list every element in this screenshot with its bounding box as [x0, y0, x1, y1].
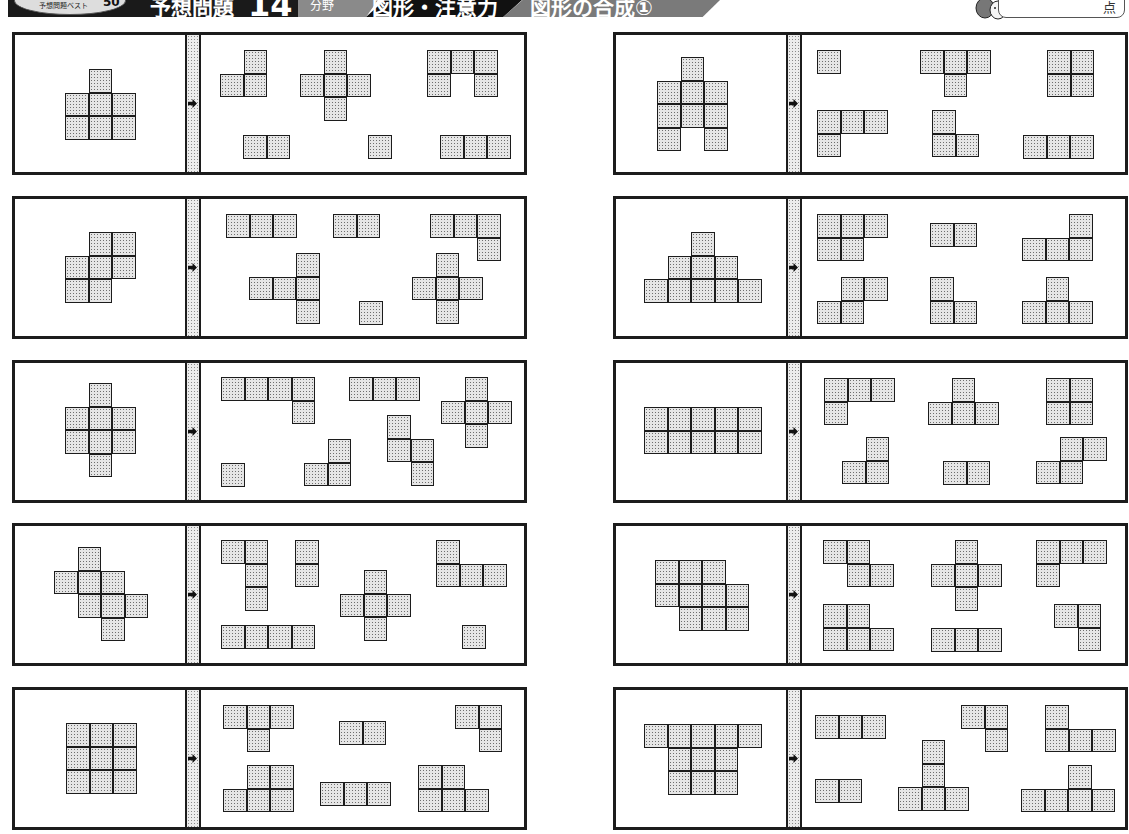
shape-cell — [922, 787, 946, 811]
shape-cell — [347, 74, 371, 98]
shape-cell — [644, 431, 668, 455]
shape-cell — [247, 705, 271, 729]
shape-cell — [1060, 437, 1084, 461]
shape-cell — [441, 401, 465, 425]
shape-cell — [985, 729, 1009, 753]
shape-cell — [817, 238, 841, 262]
panel-divider — [185, 199, 201, 336]
shape-cell — [839, 715, 863, 739]
shape-cell — [295, 564, 319, 588]
shape-cell — [66, 770, 90, 794]
shape-cell — [847, 604, 871, 628]
shape-cell — [870, 628, 894, 652]
shape-cell — [1047, 50, 1071, 74]
shape-cell — [848, 378, 872, 402]
problem-panel-7 — [613, 196, 1128, 339]
shape-cell — [644, 724, 668, 748]
shape-cell — [451, 50, 475, 74]
shape-cell — [952, 402, 976, 426]
shape-cell — [320, 782, 344, 806]
shape-cell — [817, 110, 841, 134]
shape-cell — [657, 104, 681, 128]
shape-cell — [1047, 74, 1071, 98]
shape-cell — [440, 135, 464, 159]
shape-cell — [479, 705, 503, 729]
shape-cell — [715, 748, 739, 772]
shape-cell — [226, 214, 250, 238]
shape-cell — [1083, 437, 1107, 461]
shape-cell — [357, 214, 381, 238]
panel-divider — [185, 526, 201, 663]
shape-cell — [668, 431, 692, 455]
shape-cell — [411, 439, 435, 463]
shape-cell — [866, 461, 890, 485]
score-box[interactable]: 点 — [998, 0, 1125, 18]
shape-cell — [955, 628, 979, 652]
shape-cell — [78, 594, 102, 618]
shape-cell — [328, 463, 352, 487]
panel-divider — [786, 363, 802, 500]
shape-cell — [344, 782, 368, 806]
shape-cell — [898, 787, 922, 811]
shape-cell — [952, 378, 976, 402]
panel-divider — [786, 35, 802, 172]
shape-cell — [479, 729, 503, 753]
shape-cell — [954, 301, 978, 325]
page-subtitle: 図形の合成① — [530, 0, 653, 21]
shape-cell — [866, 437, 890, 461]
problem-panel-9 — [613, 523, 1128, 666]
shape-cell — [324, 74, 348, 98]
shape-cell — [943, 461, 967, 485]
shape-cell — [847, 564, 871, 588]
shape-cell — [1047, 135, 1071, 159]
shape-cell — [817, 214, 841, 238]
shape-cell — [1083, 540, 1107, 564]
shape-cell — [1046, 301, 1070, 325]
shape-cell — [681, 104, 705, 128]
shape-cell — [90, 723, 114, 747]
shape-cell — [655, 560, 679, 584]
shape-cell — [715, 771, 739, 795]
score-unit: 点 — [1103, 0, 1116, 16]
shape-cell — [704, 104, 728, 128]
shape-cell — [1021, 789, 1045, 813]
shape-cell — [668, 771, 692, 795]
shape-cell — [349, 377, 373, 401]
series-badge-text: 予想問題ベスト — [39, 0, 88, 10]
shape-cell — [1068, 789, 1092, 813]
shape-cell — [436, 253, 460, 277]
shape-cell — [1036, 540, 1060, 564]
shape-cell — [679, 584, 703, 608]
shape-cell — [864, 277, 888, 301]
shape-cell — [847, 628, 871, 652]
shape-cell — [1023, 135, 1047, 159]
shape-cell — [427, 74, 451, 98]
shape-cell — [715, 724, 739, 748]
shape-cell — [932, 134, 956, 158]
shape-cell — [54, 571, 78, 595]
shape-cell — [691, 431, 715, 455]
shape-cell — [726, 607, 750, 631]
shape-cell — [101, 571, 125, 595]
shape-cell — [668, 748, 692, 772]
shape-cell — [1060, 461, 1084, 485]
problem-number: 14 — [248, 0, 293, 24]
problem-panel-4 — [12, 523, 527, 666]
shape-cell — [679, 607, 703, 631]
shape-cell — [418, 765, 442, 789]
shape-cell — [328, 439, 352, 463]
shape-cell — [870, 564, 894, 588]
shape-cell — [1046, 378, 1070, 402]
shape-cell — [967, 50, 991, 74]
shape-cell — [112, 256, 136, 280]
shape-cell — [89, 279, 113, 303]
shape-cell — [304, 463, 328, 487]
shape-cell — [267, 135, 291, 159]
arrow-right-icon — [789, 99, 798, 108]
shape-cell — [221, 463, 245, 487]
shape-cell — [387, 439, 411, 463]
shape-cell — [691, 279, 715, 303]
shape-cell — [90, 770, 114, 794]
shape-cell — [691, 407, 715, 431]
shape-cell — [817, 134, 841, 158]
